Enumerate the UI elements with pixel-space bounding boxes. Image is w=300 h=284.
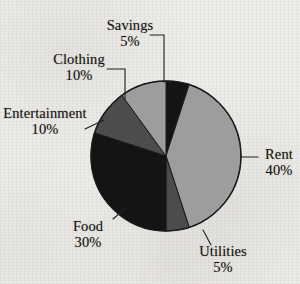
pie-label-food-value: 30% (62, 234, 114, 250)
pie-label-savings: Savings 5% (100, 17, 160, 49)
pie-label-rent-value: 40% (260, 162, 298, 178)
pie-label-clothing-name: Clothing (48, 51, 110, 67)
pie-label-food-name: Food (62, 218, 114, 234)
pie-label-utilities-name: Utilities (192, 243, 254, 259)
pie-label-entertainment-name: Entertainment (2, 105, 88, 121)
pie-label-utilities-value: 5% (192, 259, 254, 275)
pie-label-clothing-value: 10% (48, 67, 110, 83)
pie-label-utilities: Utilities 5% (192, 243, 254, 275)
pie-chart-page: Savings 5% Clothing 10% Entertainment 10… (0, 0, 300, 284)
pie-label-rent: Rent 40% (260, 146, 298, 178)
pie-slices (91, 81, 241, 231)
pie-label-savings-name: Savings (100, 17, 160, 33)
pie-label-entertainment-value: 10% (2, 121, 88, 137)
pie-label-rent-name: Rent (260, 146, 298, 162)
pie-label-clothing: Clothing 10% (48, 51, 110, 83)
pie-label-entertainment: Entertainment 10% (2, 105, 88, 137)
pie-label-food: Food 30% (62, 218, 114, 250)
pie-label-savings-value: 5% (100, 33, 160, 49)
